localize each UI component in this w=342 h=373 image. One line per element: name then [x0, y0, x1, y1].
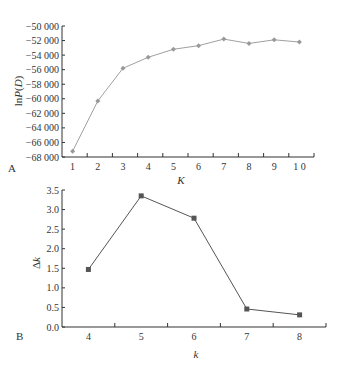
- data-point: [70, 149, 75, 154]
- data-line: [73, 39, 300, 151]
- figure: −50 000−52 000−54 000−56 000−58 000−60 0…: [0, 0, 342, 373]
- data-point: [297, 40, 302, 45]
- y-axis-title: Δk: [30, 256, 42, 269]
- x-tick-label: 7: [244, 331, 249, 342]
- y-tick-label: −58 000: [26, 79, 59, 90]
- y-tick-label: −60 000: [26, 93, 59, 104]
- data-point: [139, 193, 144, 198]
- x-tick-label: 1: [70, 161, 75, 172]
- y-tick-label: −68 000: [26, 152, 59, 163]
- y-tick-label: −54 000: [26, 50, 59, 61]
- x-tick-label: 2: [95, 161, 100, 172]
- data-line: [88, 196, 299, 315]
- x-tick-label: 8: [297, 331, 302, 342]
- x-tick-label: 1 0: [293, 161, 306, 172]
- y-tick-label: 0.5: [47, 302, 60, 313]
- y-tick-label: −62 000: [26, 108, 59, 119]
- chart-panel-B: 0.00.51.01.52.02.53.03.545678BkΔk: [16, 185, 326, 361]
- data-point: [146, 55, 151, 60]
- x-tick-label: 9: [272, 161, 277, 172]
- y-tick-label: 3.5: [47, 185, 60, 196]
- x-axis-title: k: [194, 348, 200, 360]
- data-point: [192, 216, 197, 221]
- x-tick-label: 6: [196, 161, 201, 172]
- y-tick-label: −50 000: [26, 21, 59, 32]
- x-tick-label: 3: [121, 161, 126, 172]
- x-axis-title: K: [176, 174, 185, 186]
- data-point: [244, 306, 249, 311]
- x-tick-label: 4: [86, 331, 91, 342]
- y-tick-label: −64 000: [26, 122, 59, 133]
- x-tick-label: 5: [139, 331, 144, 342]
- y-axis-title: lnP(D): [12, 75, 25, 106]
- y-tick-label: 1.0: [47, 282, 60, 293]
- x-tick-label: 8: [247, 161, 252, 172]
- panel-label: A: [8, 162, 16, 174]
- y-tick-label: −66 000: [26, 137, 59, 148]
- y-tick-label: 1.5: [47, 263, 60, 274]
- panel-label: B: [16, 330, 23, 342]
- data-point: [272, 37, 277, 42]
- chart-panel-A: −50 000−52 000−54 000−56 000−58 000−60 0…: [8, 21, 314, 187]
- y-tick-label: 2.0: [47, 243, 60, 254]
- data-point: [247, 41, 252, 46]
- x-tick-label: 7: [221, 161, 226, 172]
- data-point: [196, 43, 201, 48]
- data-point: [297, 312, 302, 317]
- y-tick-label: −56 000: [26, 64, 59, 75]
- y-tick-label: 0.0: [47, 322, 60, 333]
- x-tick-label: 4: [146, 161, 151, 172]
- x-tick-label: 6: [192, 331, 197, 342]
- y-tick-label: −52 000: [26, 35, 59, 46]
- x-tick-label: 5: [171, 161, 176, 172]
- data-point: [171, 47, 176, 52]
- y-tick-label: 2.5: [47, 224, 60, 235]
- data-point: [221, 37, 226, 42]
- data-point: [86, 267, 91, 272]
- y-tick-label: 3.0: [47, 204, 60, 215]
